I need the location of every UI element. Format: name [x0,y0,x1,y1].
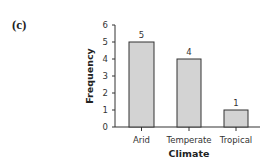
y-tick-label: 3 [103,71,108,81]
bar-value-label: 4 [186,47,191,57]
bar-value-label: 1 [233,98,238,108]
x-ticks [142,127,237,131]
x-axis-title: Climate [169,148,210,159]
y-tick-label: 5 [103,37,108,47]
y-tick-labels: 0 1 2 3 4 5 6 [103,20,108,132]
bar-arid [129,42,154,127]
y-tick-label: 1 [103,105,108,115]
bar-tropical [224,110,248,127]
x-category-label: Tropical [219,135,252,145]
x-category-label: Temperate [165,135,211,145]
bar-value-label: 5 [139,30,144,40]
y-axis-title: Frequency [84,47,95,103]
x-category-label: Arid [133,135,150,145]
y-tick-label: 0 [103,122,108,132]
y-tick-label: 6 [103,20,108,30]
y-tick-label: 4 [103,54,108,64]
y-tick-label: 2 [103,88,108,98]
bar-chart: 0 1 2 3 4 5 6 Frequency 5 4 1 Arid Tempe… [0,0,278,166]
bar-temperate [177,59,201,127]
